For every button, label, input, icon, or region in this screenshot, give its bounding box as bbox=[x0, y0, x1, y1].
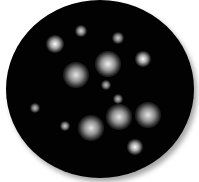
glowing-spot bbox=[112, 32, 124, 44]
dark-circular-field bbox=[6, 0, 194, 178]
glowing-spot bbox=[135, 102, 161, 128]
glowing-spot bbox=[113, 94, 123, 104]
glowing-spot bbox=[60, 121, 70, 131]
glowing-spot bbox=[63, 62, 89, 88]
glowing-spot bbox=[95, 51, 121, 77]
glowing-spot bbox=[135, 51, 151, 67]
glowing-spot bbox=[78, 115, 104, 141]
glowing-spot bbox=[75, 25, 87, 37]
glowing-spot bbox=[30, 103, 40, 113]
glowing-spot bbox=[46, 35, 64, 53]
glowing-spot bbox=[101, 80, 111, 90]
glowing-spot bbox=[106, 104, 132, 130]
glowing-spot bbox=[127, 139, 143, 155]
